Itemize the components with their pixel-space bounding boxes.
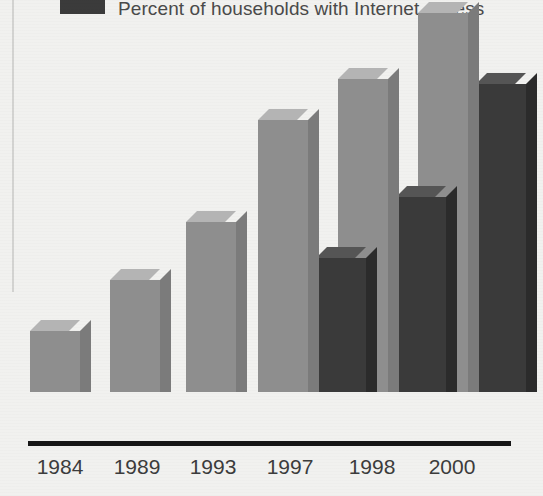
bar-1993-computer (186, 222, 236, 392)
bar-side-wrapper (366, 247, 377, 392)
bar-1984-computer (30, 331, 80, 392)
bar-1998-internet (396, 197, 446, 392)
x-tick-2000: 2000 (420, 455, 484, 479)
bar-top-face (338, 68, 388, 79)
bar-1997-computer (258, 120, 308, 392)
bar-top-face (476, 73, 526, 84)
bar-front-face (258, 120, 308, 392)
bar-front-face (30, 331, 80, 392)
bar-top-face (418, 2, 468, 13)
x-tick-1998: 1998 (340, 455, 404, 479)
bar-top-face (110, 269, 160, 280)
bar-side-wrapper (388, 68, 399, 392)
bar-side-wrapper (446, 186, 457, 392)
bar-front-face (316, 258, 366, 392)
bar-side-wrapper (236, 211, 247, 392)
bar-front-face (110, 280, 160, 392)
bar-side-wrapper (308, 109, 319, 392)
bar-chart: Percent of households with Internet acce… (0, 0, 543, 496)
bar-front-face (476, 84, 526, 392)
bar-2000-internet (476, 84, 526, 392)
x-tick-1984: 1984 (28, 455, 92, 479)
bar-front-face (186, 222, 236, 392)
bar-top-face (30, 320, 80, 331)
bar-side-wrapper (160, 269, 171, 392)
bar-side-wrapper (468, 2, 479, 392)
x-tick-1997: 1997 (258, 455, 322, 479)
bar-1989-computer (110, 280, 160, 392)
bar-front-face (396, 197, 446, 392)
plot-area: 8.215.022.836.618.042.126.251.041.5 (0, 0, 543, 444)
x-axis-line (28, 441, 511, 446)
bar-top-face (258, 109, 308, 120)
bar-side-wrapper (526, 73, 537, 392)
x-tick-1989: 1989 (105, 455, 169, 479)
bar-side-wrapper (80, 320, 91, 392)
x-tick-1993: 1993 (181, 455, 245, 479)
bar-top-face (186, 211, 236, 222)
bar-1997-internet (316, 258, 366, 392)
